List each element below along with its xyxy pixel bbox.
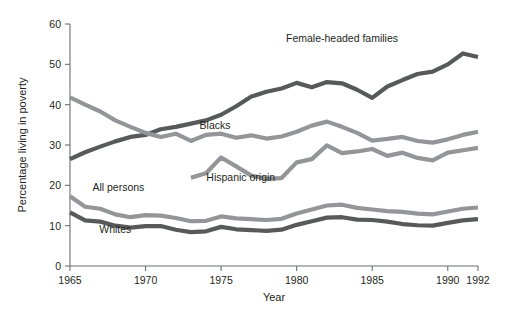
series-label-whites: Whites — [99, 223, 131, 235]
y-tick-label: 30 — [49, 139, 61, 151]
series-label-female-headed-families: Female-headed families — [286, 32, 398, 44]
y-tick-label: 10 — [49, 220, 61, 232]
y-tick-label: 50 — [49, 58, 61, 70]
y-tick-label: 20 — [49, 179, 61, 191]
series-label-all-persons: All persons — [92, 181, 144, 193]
poverty-line-chart: 0102030405060196519701975198019851990199… — [0, 0, 513, 313]
x-tick-label: 1970 — [134, 274, 158, 286]
series-line-female-headed-families — [70, 53, 478, 159]
chart-svg: 0102030405060196519701975198019851990199… — [0, 0, 513, 313]
y-tick-label: 0 — [55, 260, 61, 272]
series-label-hispanic-origin: Hispanic origin — [206, 171, 275, 183]
x-tick-label: 1965 — [58, 274, 82, 286]
x-tick-label: 1980 — [285, 274, 309, 286]
x-tick-label: 1985 — [361, 274, 385, 286]
y-axis-title: Percentage living in poverty — [16, 77, 28, 213]
x-axis-title: Year — [263, 291, 286, 303]
x-tick-label: 1975 — [209, 274, 233, 286]
y-tick-label: 60 — [49, 18, 61, 30]
y-tick-label: 40 — [49, 99, 61, 111]
x-tick-label: 1990 — [436, 274, 460, 286]
x-tick-label: 1992 — [466, 274, 490, 286]
series-line-all-persons — [70, 196, 478, 221]
series-label-blacks: Blacks — [200, 119, 231, 131]
